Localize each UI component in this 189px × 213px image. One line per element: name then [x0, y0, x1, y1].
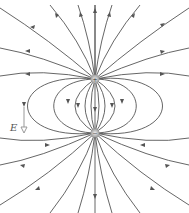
field-lines: + −: [0, 0, 189, 213]
dipole-field-diagram: + − E: [0, 0, 189, 213]
positive-sign: +: [93, 75, 98, 84]
field-vector-arrow: [21, 107, 27, 133]
negative-sign: −: [93, 129, 98, 138]
field-vector-label: E: [10, 122, 17, 133]
